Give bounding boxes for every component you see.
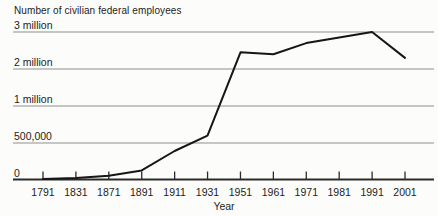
x-axis-label: 1971 (295, 186, 319, 198)
chart-title: Number of civilian federal employees (14, 5, 182, 16)
x-axis-label: 1951 (229, 186, 253, 198)
chart-svg: Number of civilian federal employees 3 m… (0, 0, 438, 216)
x-axis-title: Year (213, 200, 235, 212)
chart: Number of civilian federal employees 3 m… (0, 0, 438, 216)
y-axis-label: 0 (14, 167, 20, 179)
x-axis-label: 1911 (163, 186, 186, 198)
gridlines (13, 32, 434, 143)
y-axis-labels: 3 million 2 million 1 million 500,000 0 (14, 19, 53, 179)
y-axis-label: 500,000 (14, 130, 52, 142)
y-axis-label: 3 million (14, 19, 53, 31)
x-axis-label: 1991 (360, 186, 384, 198)
x-axis-label: 1961 (262, 186, 286, 198)
x-axis-label: 1891 (130, 186, 154, 198)
x-axis-ticks (43, 172, 405, 180)
x-axis-label: 1831 (64, 186, 88, 198)
x-axis-label: 1931 (196, 186, 220, 198)
x-axis-labels: 1791 1831 1871 1891 1911 1931 1951 1961 … (31, 186, 417, 198)
x-axis-label: 1981 (328, 186, 352, 198)
y-axis-label: 1 million (14, 93, 53, 105)
x-axis-label: 1791 (31, 186, 55, 198)
x-axis-label: 2001 (393, 186, 417, 198)
x-axis-label: 1871 (97, 186, 121, 198)
y-axis-label: 2 million (14, 56, 53, 68)
